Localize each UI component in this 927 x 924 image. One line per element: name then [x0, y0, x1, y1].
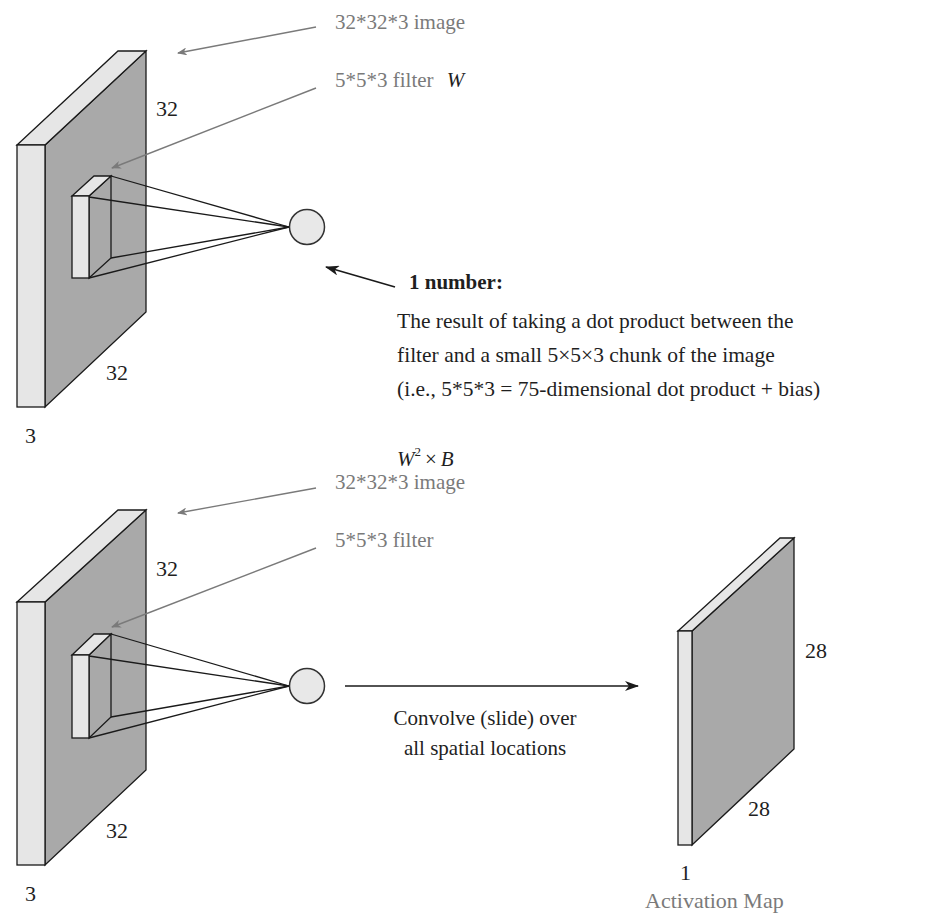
result-pointer-arrow — [326, 267, 395, 287]
filter-volume-bottom — [72, 634, 111, 738]
activation-height-label: 28 — [805, 640, 827, 662]
result-title: 1 number: — [409, 272, 503, 293]
filter-label-top: 5*5*3 filter W — [335, 70, 464, 91]
activation-depth-label: 1 — [680, 862, 691, 884]
volume-side — [17, 145, 45, 407]
activation-map-title: Activation Map — [645, 890, 784, 912]
diagram-canvas — [0, 0, 927, 924]
result-line: (i.e., 5*5*3 = 75-dimensional dot produc… — [397, 372, 820, 406]
filter-symbol: W — [447, 68, 465, 92]
volume-depth-label-top: 3 — [25, 425, 36, 447]
formula-base: W — [397, 447, 415, 471]
formula-rhs: B — [441, 447, 454, 471]
result-description: The result of taking a dot product betwe… — [397, 304, 820, 406]
output-neuron-bottom — [290, 669, 325, 704]
volume-height-label-bottom: 32 — [156, 558, 178, 580]
output-neuron-top — [290, 210, 325, 245]
convolution-diagram: 32*32*3 image 5*5*3 filter W 32 32 3 1 n… — [0, 0, 927, 924]
convolve-caption-line-1: Convolve (slide) over — [350, 708, 620, 729]
formula-operator: × — [421, 447, 441, 471]
filter-volume-top — [72, 176, 111, 278]
image-label-bottom: 32*32*3 image — [335, 472, 465, 493]
formula-exponent: 2 — [415, 444, 422, 459]
formula: W2×B — [397, 446, 454, 472]
activation-map-volume — [678, 538, 794, 845]
volume-width-label-top: 32 — [106, 362, 128, 384]
volume-width-label-bottom: 32 — [106, 820, 128, 842]
result-line: filter and a small 5×5×3 chunk of the im… — [397, 338, 820, 372]
volume-height-label-top: 32 — [156, 98, 178, 120]
filter-label-text: 5*5*3 filter — [335, 68, 434, 92]
image-pointer-arrow — [178, 27, 316, 53]
activation-width-label: 28 — [748, 798, 770, 820]
filter-label-bottom: 5*5*3 filter — [335, 530, 434, 551]
result-line: The result of taking a dot product betwe… — [397, 304, 820, 338]
image-label-top: 32*32*3 image — [335, 12, 465, 33]
volume-depth-label-bottom: 3 — [25, 883, 36, 905]
convolve-caption-line-2: all spatial locations — [350, 738, 620, 759]
